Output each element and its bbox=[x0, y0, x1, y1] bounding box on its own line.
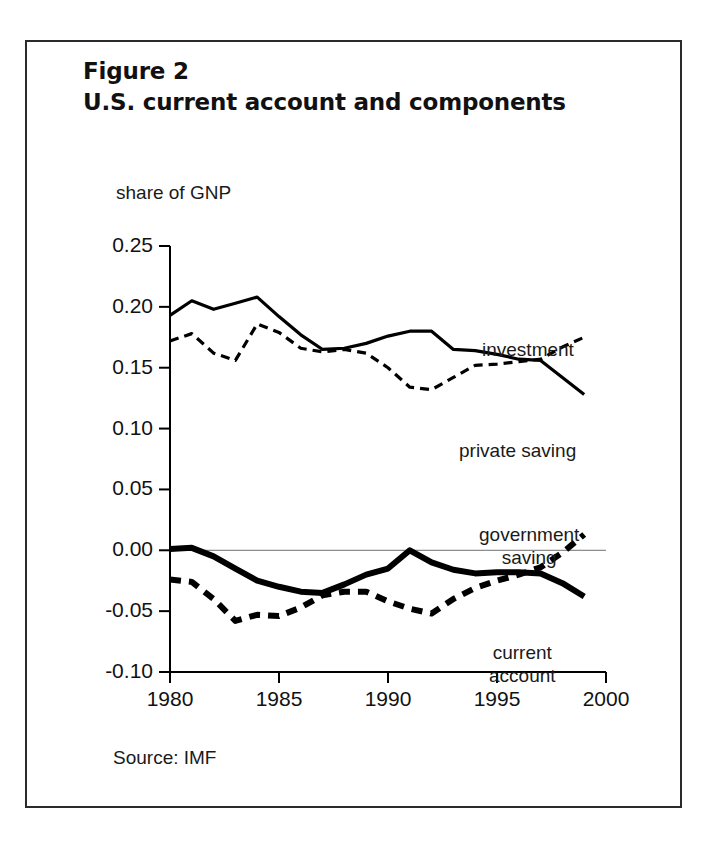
x-axis-tick-label: 2000 bbox=[566, 687, 646, 711]
series-label-current-account-line1: current bbox=[489, 641, 556, 664]
x-axis-tick-label: 1995 bbox=[457, 687, 537, 711]
y-axis-tick-label: 0.15 bbox=[77, 355, 153, 379]
y-axis-tick-label: 0.10 bbox=[77, 416, 153, 440]
series-label-investment: investment bbox=[482, 338, 574, 361]
x-axis-tick-label: 1980 bbox=[130, 687, 210, 711]
series-label-current-account-line2: account bbox=[489, 664, 556, 687]
y-axis-tick-label: 0.25 bbox=[77, 233, 153, 257]
figure-frame: Figure 2 U.S. current account and compon… bbox=[25, 40, 682, 808]
series-label-government-saving: government saving bbox=[479, 523, 579, 569]
series-label-government-saving-line1: government bbox=[479, 523, 579, 546]
source-note: Source: IMF bbox=[113, 747, 216, 769]
y-axis-tick-label: -0.05 bbox=[77, 598, 153, 622]
y-axis-tick-label: 0.20 bbox=[77, 294, 153, 318]
series-label-private-saving: private saving bbox=[459, 439, 576, 462]
x-axis-tick-label: 1985 bbox=[239, 687, 319, 711]
y-axis-tick-label: 0.05 bbox=[77, 476, 153, 500]
x-axis-tick-label: 1990 bbox=[348, 687, 428, 711]
y-axis-tick-label: 0.00 bbox=[77, 537, 153, 561]
y-axis-tick-label: -0.10 bbox=[77, 659, 153, 683]
series-label-current-account: current account bbox=[489, 641, 556, 687]
series-label-government-saving-line2: saving bbox=[479, 546, 579, 569]
